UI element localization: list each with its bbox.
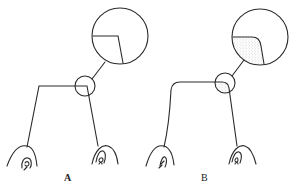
panel-a bbox=[7, 8, 148, 170]
tooth-left-b bbox=[146, 146, 174, 168]
connector-line-b bbox=[232, 60, 244, 76]
panel-label-b: B bbox=[201, 172, 208, 183]
tooth-left-a bbox=[7, 146, 37, 170]
tooth-right-a bbox=[92, 146, 118, 164]
panel-label-a: A bbox=[64, 172, 71, 183]
inset-corner-sharp bbox=[93, 36, 123, 63]
panel-b bbox=[146, 9, 288, 168]
diagram-canvas bbox=[0, 0, 290, 186]
figure: A B bbox=[0, 0, 290, 186]
tooth-right-b bbox=[229, 146, 256, 164]
connector-line-a bbox=[92, 62, 105, 79]
frame-path-a bbox=[27, 86, 98, 147]
